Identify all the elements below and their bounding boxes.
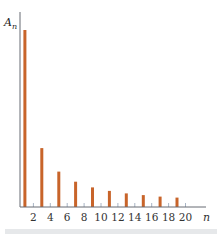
bar-n-11 [108, 191, 111, 207]
bar-n-17 [159, 197, 162, 207]
x-axis-label: n [203, 211, 210, 224]
bar-n-13 [125, 193, 128, 207]
x-tick-label: 4 [47, 211, 54, 223]
x-tick-label: 12 [111, 211, 124, 223]
x-tick-label: 20 [179, 211, 192, 223]
bottom-divider [5, 229, 217, 234]
bar-chart: 2468101214161820 n [0, 0, 222, 237]
bar-n-15 [142, 195, 145, 207]
bar-n-19 [176, 198, 179, 207]
y-axis-label: An [4, 16, 17, 31]
x-tick-labels: 2468101214161820 [30, 211, 192, 223]
x-tick-label: 2 [30, 211, 37, 223]
x-tick-label: 16 [145, 211, 159, 223]
x-tick-label: 18 [162, 211, 175, 223]
bars [23, 30, 178, 207]
bar-n-7 [74, 182, 77, 207]
x-tick-label: 6 [64, 211, 71, 223]
x-tick-label: 8 [81, 211, 88, 223]
bar-n-3 [40, 148, 43, 207]
x-tick-label: 10 [94, 211, 107, 223]
bar-n-5 [57, 172, 60, 207]
x-tick-label: 14 [128, 211, 142, 223]
bar-n-1 [23, 30, 26, 207]
bar-n-9 [91, 187, 94, 207]
